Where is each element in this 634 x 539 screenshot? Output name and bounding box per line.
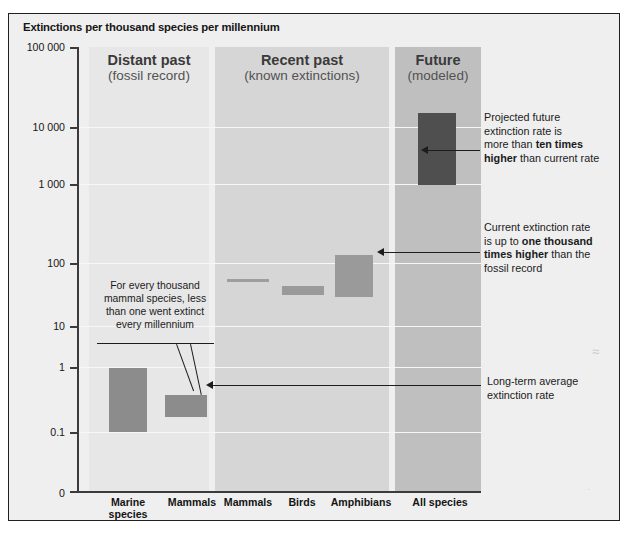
panel-distant-past: Distant past (fossil record) (89, 47, 209, 493)
annotation-projected-future-arrow (421, 146, 428, 154)
bar-mammals-fossil (165, 395, 207, 417)
y-tick-label-100: 100 (47, 257, 65, 269)
y-tick-label-1000: 1 000 (38, 178, 65, 190)
x-label-all-species: All species (403, 496, 477, 508)
panel-future-subtitle: (modeled) (395, 69, 481, 84)
figure-frame: Extinctions per thousand species per mil… (8, 13, 620, 521)
y-tick-label-0p1: 0.1 (50, 426, 65, 438)
annotation-projected-future-line3-a: more than (484, 138, 536, 150)
page-title: Extinctions per thousand species per mil… (23, 21, 280, 33)
y-tick-0p1 (70, 432, 77, 434)
panel-future-heading: Future (modeled) (395, 53, 481, 83)
panel-recent-past-subtitle: (known extinctions) (215, 69, 389, 84)
annotation-projected-future-line4-bold: higher (484, 152, 517, 164)
x-axis-labels: Marine species Mammals Mammals Birds Amp… (77, 496, 481, 536)
y-tick-label-0: 0 (59, 487, 65, 499)
x-axis-line (77, 491, 481, 493)
annotation-current-rate-line2-a: is up to (484, 235, 522, 247)
annotation-fossil-mammals-line1: For every thousand (91, 279, 219, 292)
x-label-marine-species-line2: species (89, 508, 167, 520)
y-tick-label-100000: 100 000 (27, 41, 65, 53)
annotation-projected-future: Projected future extinction rate is more… (484, 111, 614, 166)
annotation-current-rate-line2-bold: one thousand (522, 235, 593, 247)
annotation-projected-future-leader (428, 150, 480, 151)
y-tick-10000 (70, 127, 77, 129)
annotation-current-rate-line2: is up to one thousand (484, 235, 632, 249)
annotation-projected-future-line4-b: than current rate (517, 152, 599, 164)
panel-recent-past-title: Recent past (215, 53, 389, 69)
annotation-fossil-mammals-line4: every millennium (91, 318, 219, 331)
annotation-long-term-average-arrow (206, 381, 213, 389)
gridline-100 (79, 263, 481, 264)
bar-amphibians (335, 255, 373, 297)
y-tick-0 (70, 491, 77, 493)
annotation-current-rate: Current extinction rate is up to one tho… (484, 221, 632, 276)
scan-smudge-right: ≈ (592, 344, 599, 359)
panel-future-title: Future (395, 53, 481, 69)
annotation-fossil-mammals-line2: mammal species, less (91, 292, 219, 305)
bar-birds (282, 286, 324, 295)
panel-recent-past-heading: Recent past (known extinctions) (215, 53, 389, 83)
y-axis-labels: 100 000 10 000 1 000 100 10 1 0.1 0 (9, 47, 71, 493)
y-tick-100000 (70, 47, 77, 49)
y-axis-line (77, 47, 79, 493)
bar-mammals-recent (227, 279, 269, 282)
annotation-current-rate-leader (384, 252, 480, 253)
annotation-long-term-average-leader (213, 385, 481, 386)
panel-distant-past-subtitle: (fossil record) (89, 69, 209, 84)
annotation-current-rate-line3-bold: times higher (484, 248, 548, 260)
x-label-amphibians: Amphibians (319, 496, 403, 508)
annotation-current-rate-line3-b: than the (548, 248, 590, 260)
annotation-projected-future-line2: extinction rate is (484, 125, 614, 139)
annotation-long-term-average-line1: Long-term average (487, 375, 627, 389)
annotation-long-term-average-line2: extinction rate (487, 389, 627, 403)
y-tick-1000 (70, 184, 77, 186)
annotation-current-rate-arrow (377, 248, 384, 256)
y-tick-100 (70, 263, 77, 265)
annotation-projected-future-line3: more than ten times (484, 138, 614, 152)
annotation-current-rate-line4: fossil record (484, 262, 632, 276)
y-tick-10 (70, 326, 77, 328)
annotation-projected-future-line1: Projected future (484, 111, 614, 125)
annotation-projected-future-line3-bold: ten times (536, 138, 583, 150)
x-label-mammals-recent: Mammals (211, 496, 285, 508)
y-tick-label-10000: 10 000 (33, 121, 65, 133)
bar-marine-species (109, 368, 147, 432)
y-tick-1 (70, 367, 77, 369)
annotation-projected-future-line4: higher than current rate (484, 152, 614, 166)
annotation-fossil-mammals: For every thousand mammal species, less … (91, 279, 219, 331)
panel-distant-past-title: Distant past (89, 53, 209, 69)
annotation-fossil-mammals-line3: than one went extinct (91, 305, 219, 318)
y-tick-label-10: 10 (53, 320, 65, 332)
gridline-0p1 (79, 432, 481, 433)
y-tick-label-1: 1 (59, 361, 65, 373)
annotation-fossil-leader-horizontal (97, 343, 214, 344)
annotation-current-rate-line3: times higher than the (484, 248, 632, 262)
annotation-current-rate-line1: Current extinction rate (484, 221, 632, 235)
plot-area: Distant past (fossil record) Recent past… (77, 47, 481, 493)
scan-smudge-bottom: · (587, 484, 590, 494)
annotation-long-term-average: Long-term average extinction rate (487, 375, 627, 402)
panel-distant-past-heading: Distant past (fossil record) (89, 53, 209, 83)
